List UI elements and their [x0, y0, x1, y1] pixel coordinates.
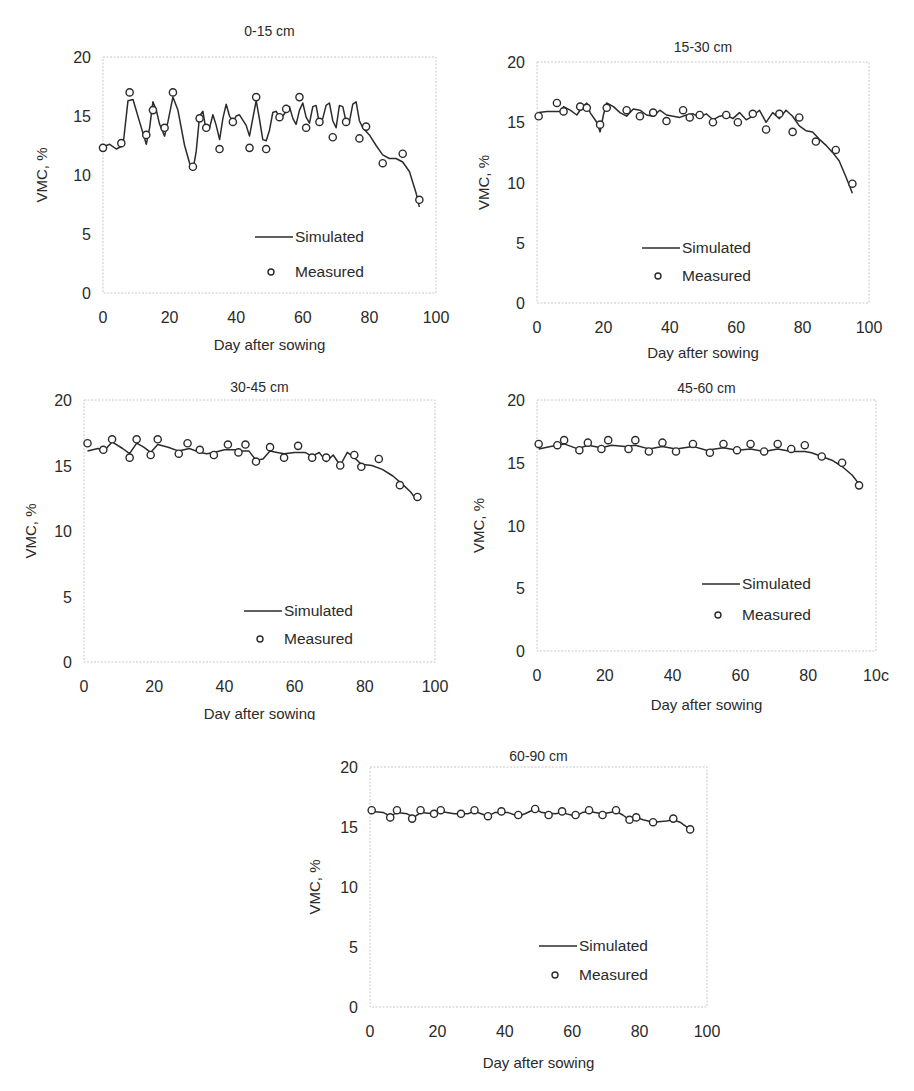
- measured-marker: [457, 810, 464, 817]
- y-tick-label: 15: [73, 108, 91, 125]
- measured-marker: [303, 124, 310, 131]
- measured-marker: [210, 451, 217, 458]
- measured-marker: [632, 437, 639, 444]
- measured-marker: [855, 482, 862, 489]
- y-tick-label: 0: [516, 643, 525, 660]
- measured-marker: [99, 144, 106, 151]
- y-axis-label: VMC, %: [33, 147, 50, 202]
- measured-points: [99, 89, 423, 204]
- measured-marker: [196, 446, 203, 453]
- measured-marker: [417, 807, 424, 814]
- measured-marker: [696, 111, 703, 118]
- measured-points: [535, 437, 863, 489]
- y-axis-label: VMC, %: [475, 155, 492, 210]
- measured-marker: [776, 110, 783, 117]
- y-tick-label: 20: [54, 392, 72, 409]
- y-tick-label: 15: [507, 114, 525, 131]
- y-tick-label: 5: [63, 589, 72, 606]
- x-tick-label: 0: [533, 319, 542, 336]
- measured-marker: [636, 113, 643, 120]
- measured-marker: [558, 808, 565, 815]
- measured-marker: [649, 819, 656, 826]
- chart-title: 0-15 cm: [244, 23, 295, 39]
- measured-marker: [583, 104, 590, 111]
- measured-marker: [126, 89, 133, 96]
- x-tick-label: 60: [727, 319, 745, 336]
- chart-panel-60-90cm: 60-90 cm05101520020406080100Day after so…: [280, 720, 720, 1091]
- measured-marker: [670, 815, 677, 822]
- y-tick-label: 20: [73, 49, 91, 66]
- x-tick-label: 20: [145, 678, 163, 695]
- plot-area-frame: [537, 400, 876, 651]
- measured-marker: [316, 118, 323, 125]
- legend: SimulatedMeasured: [702, 575, 811, 623]
- measured-marker: [396, 482, 403, 489]
- measured-marker: [645, 448, 652, 455]
- measured-marker: [596, 121, 603, 128]
- x-tick-label: 0: [533, 667, 542, 684]
- measured-marker: [84, 440, 91, 447]
- measured-points: [535, 99, 856, 187]
- measured-marker: [774, 440, 781, 447]
- y-axis-label: VMC, %: [470, 498, 487, 553]
- measured-marker: [393, 807, 400, 814]
- measured-marker: [161, 124, 168, 131]
- measured-marker: [818, 453, 825, 460]
- measured-marker: [169, 89, 176, 96]
- y-tick-label: 0: [82, 285, 91, 302]
- legend-measured-label: Measured: [682, 267, 751, 284]
- x-tick-label: 80: [631, 1023, 649, 1040]
- measured-marker: [812, 138, 819, 145]
- measured-marker: [672, 448, 679, 455]
- measured-marker: [599, 811, 606, 818]
- x-tick-label: 0: [99, 309, 108, 326]
- simulated-line: [88, 442, 418, 501]
- chart-panel-45-60cm: 45-60 cm0510152002040608010сDay after so…: [460, 370, 914, 720]
- measured-marker: [375, 455, 382, 462]
- y-tick-label: 0: [516, 295, 525, 312]
- measured-marker: [747, 440, 754, 447]
- measured-marker: [839, 459, 846, 466]
- chart-svg: 60-90 cm05101520020406080100Day after so…: [280, 720, 720, 1091]
- measured-marker: [471, 807, 478, 814]
- x-tick-label: 80: [794, 319, 812, 336]
- measured-marker: [356, 135, 363, 142]
- measured-marker: [709, 119, 716, 126]
- measured-marker: [399, 150, 406, 157]
- measured-marker: [280, 454, 287, 461]
- x-tick-label: 80: [361, 309, 379, 326]
- y-tick-label: 5: [516, 235, 525, 252]
- measured-marker: [723, 111, 730, 118]
- measured-marker: [263, 145, 270, 152]
- chart-svg: 0-15 cm05101520020406080100Day after sow…: [0, 0, 460, 365]
- measured-marker: [379, 160, 386, 167]
- measured-marker: [498, 808, 505, 815]
- measured-marker: [585, 807, 592, 814]
- measured-marker: [362, 123, 369, 130]
- measured-marker: [387, 814, 394, 821]
- legend-simulated-label: Simulated: [579, 937, 648, 954]
- measured-marker: [126, 454, 133, 461]
- y-tick-label: 10: [507, 175, 525, 192]
- measured-marker: [598, 445, 605, 452]
- y-axis-label: VMC, %: [306, 859, 323, 914]
- measured-marker: [679, 107, 686, 114]
- measured-marker: [147, 451, 154, 458]
- measured-marker: [515, 811, 522, 818]
- measured-marker: [650, 109, 657, 116]
- x-tick-label: 60: [563, 1023, 581, 1040]
- y-tick-label: 20: [507, 54, 525, 71]
- x-axis-label: Day after sowing: [214, 336, 326, 353]
- measured-marker: [532, 805, 539, 812]
- measured-marker: [761, 448, 768, 455]
- measured-marker: [203, 124, 210, 131]
- measured-marker: [358, 463, 365, 470]
- x-tick-label: 20: [596, 667, 614, 684]
- legend: SimulatedMeasured: [244, 602, 353, 647]
- x-tick-label: 40: [216, 678, 234, 695]
- measured-marker: [796, 114, 803, 121]
- legend-simulated-label: Simulated: [742, 575, 811, 592]
- y-tick-label: 10: [73, 167, 91, 184]
- legend-simulated-label: Simulated: [295, 228, 364, 245]
- chart-panel-15-30cm: 15-30 cm05101520020406080100Day after so…: [460, 0, 914, 370]
